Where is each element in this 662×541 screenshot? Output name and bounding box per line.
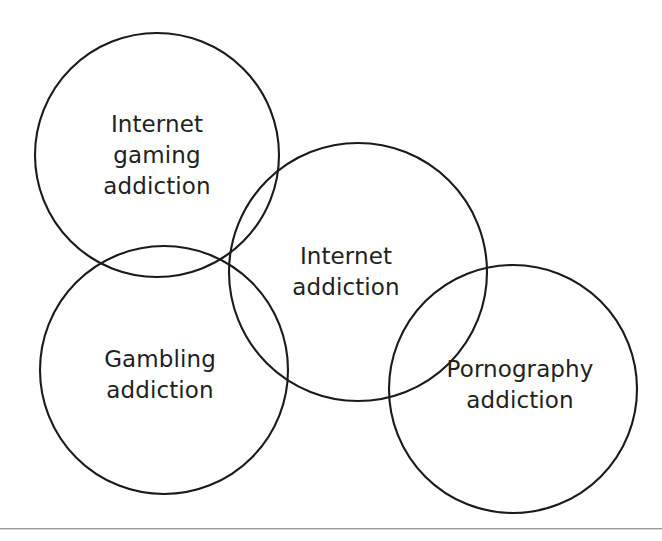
venn-circles-canvas xyxy=(0,0,662,541)
bottom-rule-shadow xyxy=(0,529,662,530)
circle-gambling-addiction xyxy=(40,246,288,494)
circle-pornography-addiction xyxy=(389,265,637,513)
circle-internet-gaming-addiction xyxy=(35,33,279,277)
circle-internet-addiction xyxy=(229,143,487,401)
venn-diagram-figure: Internet gaming addiction Gambling addic… xyxy=(0,0,662,541)
